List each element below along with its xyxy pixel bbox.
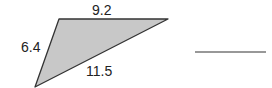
side-label-top: 9.2 [92, 2, 112, 18]
triangle-diagram: 9.2 6.4 11.5 [0, 0, 272, 88]
side-label-bottom: 11.5 [86, 63, 112, 79]
side-label-left: 6.4 [21, 39, 41, 55]
